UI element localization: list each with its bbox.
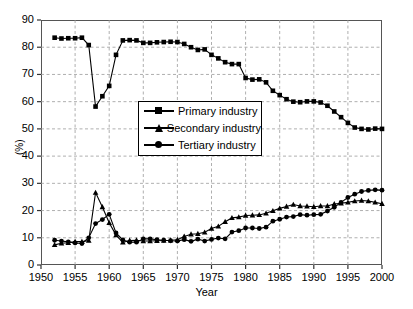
legend-marker-square-icon (144, 106, 174, 116)
data-point (209, 53, 214, 58)
data-point (93, 190, 99, 195)
data-point (366, 127, 371, 132)
data-point (243, 226, 248, 231)
data-point (93, 104, 98, 109)
legend-marker-triangle-icon (144, 123, 163, 133)
data-point (359, 189, 364, 194)
data-point (66, 239, 71, 244)
data-point (366, 188, 371, 193)
x-tick-label: 1985 (264, 271, 296, 283)
data-point (209, 237, 214, 242)
data-point (346, 195, 351, 200)
data-point (66, 36, 71, 41)
data-point (277, 217, 282, 222)
data-point (73, 36, 78, 41)
data-point (318, 212, 323, 217)
data-point (339, 200, 344, 205)
data-point (222, 219, 228, 224)
data-point (230, 62, 235, 67)
data-point (373, 126, 378, 131)
data-point (236, 228, 241, 233)
data-point (80, 241, 85, 246)
data-point (100, 204, 106, 209)
data-point (271, 88, 276, 93)
x-axis-title: Year (0, 286, 413, 298)
y-tick-label: 50 (0, 122, 34, 134)
y-tick-label: 60 (0, 95, 34, 107)
data-point (141, 41, 146, 46)
data-point (216, 223, 222, 228)
chart-legend: Primary industry Secondary industry Tert… (138, 101, 262, 156)
data-point (298, 100, 303, 105)
y-tick-label: 30 (0, 176, 34, 188)
data-point (243, 76, 248, 81)
data-point (134, 38, 139, 43)
data-point (86, 235, 91, 240)
data-point (312, 99, 317, 104)
x-tick-label: 1990 (298, 271, 330, 283)
x-tick-label: 1960 (93, 271, 125, 283)
data-point (305, 99, 310, 104)
data-point (189, 45, 194, 50)
data-point (373, 187, 378, 192)
data-point (332, 205, 337, 210)
data-point (155, 40, 160, 45)
data-point (250, 77, 255, 82)
data-point (311, 212, 316, 217)
legend-label-tertiary: Tertiary industry (178, 139, 256, 151)
data-point (182, 237, 187, 242)
data-point (161, 238, 166, 243)
data-point (325, 209, 330, 214)
data-point (80, 35, 85, 40)
data-point (284, 97, 289, 102)
data-point (264, 80, 269, 85)
y-tick-label: 90 (0, 13, 34, 25)
legend-item-primary: Primary industry (139, 102, 261, 119)
x-tick-label: 1950 (25, 271, 57, 283)
data-point (202, 239, 207, 244)
data-point (175, 239, 180, 244)
data-point (264, 225, 269, 230)
data-point (127, 240, 132, 245)
data-point (114, 53, 119, 58)
data-point (100, 217, 105, 222)
data-point (352, 192, 357, 197)
data-point (141, 236, 146, 241)
legend-marker-circle-icon (144, 140, 174, 150)
data-point (189, 239, 194, 244)
data-point (202, 229, 208, 234)
data-point (270, 219, 275, 224)
y-tick-label: 70 (0, 67, 34, 79)
data-point (52, 35, 57, 40)
y-tick-label: 40 (0, 149, 34, 161)
data-point (121, 38, 126, 43)
y-tick-label: 10 (0, 231, 34, 243)
data-point (168, 39, 173, 44)
data-point (93, 221, 98, 226)
data-point (236, 62, 241, 67)
data-point (182, 42, 187, 47)
data-point (175, 40, 180, 45)
y-tick-label: 20 (0, 204, 34, 216)
data-point (120, 238, 125, 243)
data-point (134, 240, 139, 245)
data-point (318, 100, 323, 105)
data-point (73, 241, 78, 246)
data-point (284, 215, 289, 220)
data-point (298, 212, 303, 217)
data-point (216, 56, 221, 61)
x-tick-label: 1970 (161, 271, 193, 283)
data-point (325, 103, 330, 108)
data-point (107, 84, 112, 89)
data-point (359, 127, 364, 132)
x-tick-label: 2000 (366, 271, 398, 283)
data-point (291, 214, 296, 219)
legend-item-tertiary: Tertiary industry (139, 136, 261, 153)
data-point (59, 239, 64, 244)
data-point (148, 236, 153, 241)
data-point (352, 125, 357, 130)
legend-label-primary: Primary industry (178, 105, 257, 117)
data-point (332, 109, 337, 114)
series-line-2 (55, 190, 382, 244)
data-point (257, 226, 262, 231)
